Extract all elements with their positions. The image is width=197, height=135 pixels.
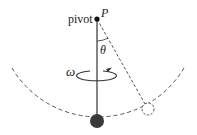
displaced-string: [97, 19, 145, 104]
theta-arc: [97, 38, 108, 41]
pivot-point: [94, 16, 99, 21]
omega-label: ω: [66, 64, 75, 79]
pendulum-diagram: pivot P θ ω: [0, 0, 197, 135]
pivot-label: pivot: [68, 12, 93, 26]
theta-label: θ: [100, 43, 106, 57]
point-p-label: P: [100, 6, 109, 20]
pendulum-bob: [90, 114, 104, 128]
swing-arc: [12, 68, 184, 117]
displaced-bob: [142, 103, 154, 115]
